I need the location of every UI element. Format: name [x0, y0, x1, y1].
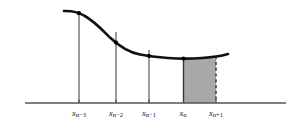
tick-label-sub-xn-2: n−2 [113, 111, 123, 118]
tick-label-sub-xn-3: n−3 [76, 111, 86, 118]
tick-label-xn-1: xn−1 [142, 108, 156, 118]
ordinate-lines-group [79, 12, 149, 103]
tick-label-xn: xn [179, 108, 186, 118]
tick-label-sub-xn-plus-1: n+1 [213, 111, 223, 118]
shaded-rectangle-group [184, 56, 217, 103]
curve-point-marker-xn-1 [147, 54, 151, 58]
tick-label-xn-3: xn−3 [72, 108, 86, 118]
curve-point-marker-xn-2 [114, 40, 118, 44]
figure-container: xn−3 xn−2 xn−1 xn xn+1 [0, 0, 300, 130]
tick-label-sub-xn: n [183, 111, 186, 118]
shaded-rectangle [184, 59, 217, 104]
function-curve [64, 11, 228, 59]
curve-point-marker-xn [181, 57, 185, 61]
tick-label-xn-2: xn−2 [109, 108, 123, 118]
curve-point-marker-xn-3 [77, 11, 81, 15]
tick-label-sub-xn-1: n−1 [146, 111, 156, 118]
tick-label-xn-plus-1: xn+1 [209, 108, 223, 118]
